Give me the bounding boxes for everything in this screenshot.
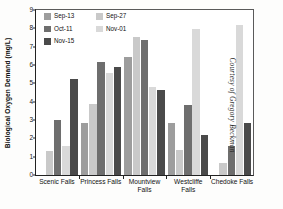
bar (114, 67, 122, 175)
legend-label: Nov-15 (54, 38, 74, 44)
bar (176, 150, 184, 175)
y-axis-tick-mark (33, 175, 36, 176)
bar (81, 123, 89, 175)
bar (168, 123, 176, 175)
legend-label: Sep-13 (54, 13, 74, 19)
credit-container: Courtesy of Gregory Beckman (267, 0, 281, 209)
y-axis-tick-mark (33, 10, 36, 11)
y-axis-tick-mark (33, 65, 36, 66)
x-axis-labels: Scenic FallsPrincess FallsMountview Fall… (35, 178, 254, 195)
legend-label: Nov-01 (106, 26, 126, 32)
legend-swatch-icon (96, 13, 103, 20)
legend-item: Nov-15 (44, 38, 96, 45)
bar (124, 57, 132, 175)
legend-swatch-icon (96, 26, 103, 33)
legend-label: Sep-27 (106, 13, 126, 19)
y-axis-title: Biological Oxygen Demand (mg/L) (4, 37, 11, 147)
y-axis-tick-mark (33, 120, 36, 121)
bar (192, 29, 200, 175)
bar (97, 62, 105, 175)
legend-swatch-icon (44, 13, 51, 20)
bar (133, 37, 141, 175)
bar (157, 90, 165, 175)
legend-item: Sep-27 (96, 13, 148, 20)
bar (141, 40, 149, 175)
y-axis-tick-mark (33, 138, 36, 139)
bar (184, 105, 192, 175)
legend-label: Oct-11 (54, 26, 72, 32)
x-axis-label: Princess Falls (79, 178, 123, 195)
credit-text: Courtesy of Gregory Beckman (228, 57, 237, 152)
y-axis-tick-mark (33, 83, 36, 84)
chart-figure: Biological Oxygen Demand (mg/L) 01234567… (0, 0, 283, 209)
x-axis-label: Chedoke Falls (210, 178, 254, 195)
bar (54, 120, 62, 175)
bar (46, 151, 54, 175)
chart-legend: Sep-13Sep-27Oct-11Nov-01Nov-15 (44, 13, 199, 51)
legend-item: Sep-13 (44, 13, 96, 20)
legend-swatch-icon (44, 38, 51, 45)
bar (70, 79, 78, 175)
legend-swatch-icon (44, 26, 51, 33)
y-axis-tick-mark (33, 101, 36, 102)
x-axis-label: Mountview Falls (123, 178, 167, 195)
bar (219, 163, 227, 175)
y-axis-title-container: Biological Oxygen Demand (mg/L) (9, 9, 19, 176)
legend-item: Nov-01 (96, 26, 148, 33)
x-axis-label: Scenic Falls (35, 178, 79, 195)
legend-item: Oct-11 (44, 26, 96, 33)
bar (201, 135, 209, 175)
bar (149, 87, 157, 175)
y-axis-tick-mark (33, 46, 36, 47)
bar (62, 146, 70, 175)
bar (106, 73, 114, 175)
x-axis-label: Westcliffe Falls (166, 178, 210, 195)
y-axis-tick-mark (33, 156, 36, 157)
y-axis-tick-mark (33, 28, 36, 29)
bar (89, 104, 97, 175)
bar (244, 123, 252, 175)
